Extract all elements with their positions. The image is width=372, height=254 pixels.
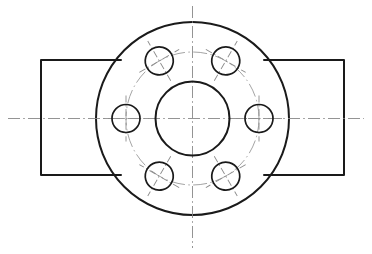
left-mounting-tab bbox=[41, 60, 121, 175]
drawing-canvas bbox=[0, 0, 372, 254]
right-mounting-tab-outline bbox=[264, 60, 344, 175]
right-mounting-tab bbox=[264, 60, 344, 175]
left-mounting-tab-outline bbox=[41, 60, 121, 175]
flange-drawing bbox=[0, 0, 372, 254]
